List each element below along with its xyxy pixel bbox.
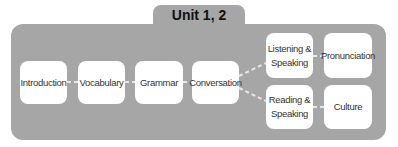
node-label: Vocabulary bbox=[79, 76, 123, 90]
node-reading-speaking: Reading & Speaking bbox=[266, 85, 313, 129]
node-label: Conversation bbox=[189, 76, 241, 90]
edge-conversation-listening bbox=[239, 63, 266, 76]
node-label: Reading & Speaking bbox=[266, 93, 313, 121]
edge-conversation-reading bbox=[239, 88, 266, 101]
node-label: Listening & Speaking bbox=[266, 42, 313, 70]
node-pronunciation: Pronunciation bbox=[324, 33, 372, 78]
node-label: Pronunciation bbox=[321, 49, 375, 63]
node-label: Introduction bbox=[20, 76, 66, 90]
node-vocabulary: Vocabulary bbox=[78, 61, 125, 104]
node-culture: Culture bbox=[324, 85, 372, 129]
node-listening-speaking: Listening & Speaking bbox=[266, 33, 313, 78]
node-introduction: Introduction bbox=[20, 61, 67, 104]
node-conversation: Conversation bbox=[192, 61, 239, 104]
node-grammar: Grammar bbox=[135, 61, 183, 104]
node-label: Grammar bbox=[140, 76, 178, 90]
node-label: Culture bbox=[334, 100, 363, 114]
